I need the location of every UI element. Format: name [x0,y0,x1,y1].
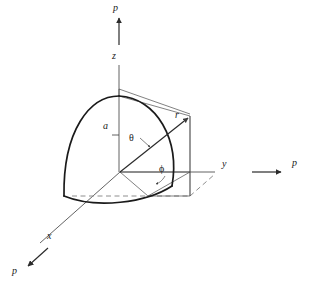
theta-angle-indicator [140,138,150,147]
dashed-base-lines [72,174,215,196]
radius-a-label: a [103,121,108,131]
figure-canvas [0,0,313,287]
radius-vector-r [120,118,188,172]
spherical-coordinate-figure: p p p z y x a θ r ϕ [0,0,313,287]
phi-angle-label: ϕ [159,164,164,174]
theta-angle-label: θ [129,133,134,143]
p-arrow-right-label: p [292,158,297,168]
phi-angle-indicator [156,176,165,184]
radius-vector-label: r [175,110,179,120]
p-arrow-bottom [28,248,48,266]
x-axis [40,172,120,243]
z-axis-label: z [112,51,116,61]
y-axis-label: y [222,159,226,169]
p-arrow-top-label: p [113,3,118,13]
x-axis-label: x [47,231,51,241]
p-arrow-bottom-label: p [12,266,17,276]
